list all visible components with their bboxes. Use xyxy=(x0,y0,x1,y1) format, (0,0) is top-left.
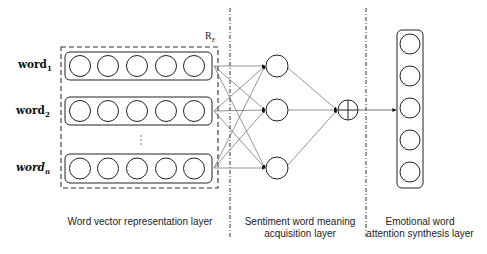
sum-node-icon xyxy=(338,100,358,120)
embedding-box xyxy=(61,47,218,188)
input-label-word-1: word1 xyxy=(18,58,52,73)
layer-label-word-vector: Word vector representation layer xyxy=(55,216,225,228)
input-label-word-2: word2 xyxy=(16,104,50,119)
input-label-word-n: wordn xyxy=(16,161,50,176)
diagram-canvas: word1 word2 wordn RE Word vector represe… xyxy=(0,0,487,254)
word-vector-row-1 xyxy=(65,52,212,80)
hidden-nodes xyxy=(266,55,288,179)
vertical-ellipsis-icon xyxy=(140,135,141,144)
layer-label-attention: Emotional word attention synthesis layer xyxy=(365,216,475,240)
hidden-node-2 xyxy=(266,99,288,121)
word-vector-row-n xyxy=(65,154,212,183)
hidden-node-3 xyxy=(266,157,288,179)
hidden-edges xyxy=(288,68,337,165)
attention-vector xyxy=(397,30,423,188)
layer-label-sentiment: Sentiment word meaning acquisition layer xyxy=(240,216,360,240)
hidden-node-1 xyxy=(266,55,288,77)
embedding-matrix-label: RE xyxy=(205,30,215,43)
word-vector-row-2 xyxy=(65,97,212,125)
input-edges xyxy=(214,66,265,168)
